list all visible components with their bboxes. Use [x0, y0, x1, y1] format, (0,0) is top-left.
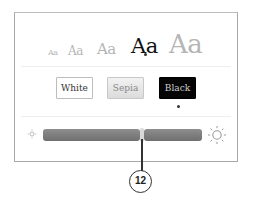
theme-white-button[interactable]: White — [56, 77, 93, 99]
divider — [21, 66, 231, 67]
font-size-option-2[interactable]: Aa — [68, 45, 83, 57]
font-size-selected-indicator — [144, 53, 147, 56]
brightness-slider-filled[interactable] — [43, 129, 140, 141]
theme-black-button[interactable]: Black — [159, 77, 196, 99]
font-size-option-3[interactable]: Aa — [97, 42, 116, 57]
font-size-option-5[interactable]: Aa — [169, 31, 202, 57]
brightness-slider-track[interactable] — [144, 129, 202, 141]
divider — [21, 116, 231, 117]
theme-selected-indicator — [177, 105, 180, 108]
sun-large-icon — [207, 125, 227, 145]
theme-sepia-button[interactable]: Sepia — [107, 77, 144, 99]
sun-small-icon — [27, 129, 37, 139]
callout-number-badge: 12 — [129, 170, 152, 193]
font-size-selector: Aa Aa Aa Aa Aa — [15, 27, 237, 57]
callout-leader-line — [141, 139, 143, 171]
reading-settings-panel: Aa Aa Aa Aa Aa White Sepia Black — [14, 12, 238, 162]
font-size-option-1[interactable]: Aa — [48, 49, 58, 57]
